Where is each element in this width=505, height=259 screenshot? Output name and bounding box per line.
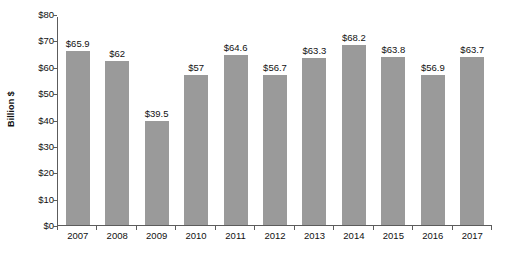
bar-value-label: $63.3 — [303, 45, 327, 56]
bar-group: $63.8 — [374, 14, 413, 225]
x-axis-category-label: 2012 — [255, 230, 294, 242]
y-axis-tick-mark — [53, 41, 57, 42]
y-axis-tick-mark — [53, 147, 57, 148]
bar-group: $57 — [176, 14, 215, 225]
y-axis-tick-label: $20 — [18, 168, 54, 178]
y-axis-tick-mark — [53, 15, 57, 16]
plot-area: $65.9$62$39.5$57$64.6$56.7$63.3$68.2$63.… — [57, 14, 492, 226]
bar — [66, 51, 90, 225]
bar-value-label: $64.6 — [224, 42, 248, 53]
bar — [105, 61, 129, 225]
bar — [460, 57, 484, 225]
bar-chart: Billion $ $0$10$20$30$40$50$60$70$80 $65… — [0, 0, 505, 259]
bar-group: $62 — [97, 14, 136, 225]
bar-group: $63.3 — [295, 14, 334, 225]
bar-value-label: $39.5 — [145, 108, 169, 119]
bar — [381, 57, 405, 225]
y-axis-tick-label: $0 — [18, 221, 54, 231]
y-axis-tick-mark — [53, 94, 57, 95]
x-axis-category-labels: 2007200820092010201120122013201420152016… — [58, 230, 492, 246]
x-axis-category-label: 2010 — [176, 230, 215, 242]
x-axis-category-label: 2009 — [137, 230, 176, 242]
bar-value-label: $62 — [109, 48, 125, 59]
bar-value-label: $63.7 — [460, 44, 484, 55]
x-axis-line — [57, 225, 492, 226]
bar-group: $63.7 — [453, 14, 492, 225]
y-axis-tick-label: $10 — [18, 195, 54, 205]
bar — [224, 55, 248, 225]
y-axis-tick-label: $60 — [18, 63, 54, 73]
y-axis-tick-mark — [53, 173, 57, 174]
bar-value-label: $56.9 — [421, 62, 445, 73]
bar — [263, 75, 287, 225]
y-axis-tick-label: $30 — [18, 142, 54, 152]
y-axis-tick-label: $70 — [18, 36, 54, 46]
x-axis-category-label: 2015 — [374, 230, 413, 242]
bar-value-label: $68.2 — [342, 32, 366, 43]
y-axis-tick-mark — [53, 68, 57, 69]
x-axis-category-label: 2008 — [97, 230, 136, 242]
y-axis-tick-label: $80 — [18, 10, 54, 20]
y-axis-tick-label: $50 — [18, 89, 54, 99]
bar-value-label: $65.9 — [66, 38, 90, 49]
bar-group: $56.9 — [413, 14, 452, 225]
x-axis-category-label: 2016 — [413, 230, 452, 242]
y-axis-tick-labels: $0$10$20$30$40$50$60$70$80 — [12, 0, 54, 259]
bar-value-label: $57 — [188, 62, 204, 73]
bar — [421, 75, 445, 225]
bar-group: $39.5 — [137, 14, 176, 225]
bar-group: $68.2 — [334, 14, 373, 225]
y-axis-tick-mark — [53, 200, 57, 201]
bar — [342, 45, 366, 225]
bar-group: $64.6 — [216, 14, 255, 225]
bar-value-label: $63.8 — [381, 44, 405, 55]
x-axis-category-label: 2007 — [58, 230, 97, 242]
y-axis-tick-mark — [53, 121, 57, 122]
bar-value-label: $56.7 — [263, 62, 287, 73]
bar-group: $65.9 — [58, 14, 97, 225]
x-axis-category-label: 2014 — [334, 230, 373, 242]
x-axis-category-label: 2017 — [453, 230, 492, 242]
bar-series: $65.9$62$39.5$57$64.6$56.7$63.3$68.2$63.… — [58, 14, 492, 225]
bar-group: $56.7 — [255, 14, 294, 225]
bar — [145, 121, 169, 225]
bar — [184, 75, 208, 225]
y-axis-tick-label: $40 — [18, 116, 54, 126]
x-axis-category-label: 2013 — [295, 230, 334, 242]
x-axis-category-label: 2011 — [216, 230, 255, 242]
bar — [302, 58, 326, 225]
